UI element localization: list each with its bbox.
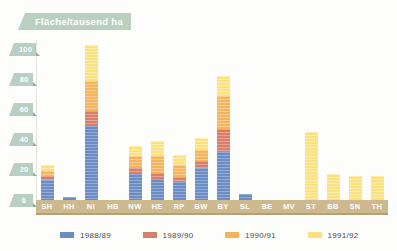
bar-segment-HE-1988-89[interactable]	[151, 179, 164, 200]
legend-label: 1991/92	[328, 231, 359, 240]
bar-segment-HE-1991-92[interactable]	[151, 141, 164, 156]
bar-segment-BW-1988-89[interactable]	[195, 168, 208, 200]
bar-stack-SH[interactable]	[41, 165, 54, 200]
y-axis-tick-40: 40	[14, 133, 33, 146]
bar-stack-BB[interactable]	[327, 174, 340, 200]
bar-segment-BW-1990-91[interactable]	[195, 150, 208, 161]
legend-item-1990-91[interactable]: 1990/91	[225, 231, 308, 240]
y-axis-tick-100: 100	[14, 43, 36, 56]
bar-segment-BB-1991-92[interactable]	[327, 174, 340, 200]
x-axis-tick-NW: NW	[124, 200, 146, 213]
bar-segment-NI-1990-91[interactable]	[85, 81, 98, 111]
bar-slot-HH[interactable]	[58, 40, 80, 200]
bar-slot-SH[interactable]	[36, 40, 58, 200]
bar-slot-SL[interactable]	[234, 40, 256, 200]
y-axis-tick-20: 20	[14, 163, 33, 176]
bar-stack-ST[interactable]	[305, 132, 318, 200]
bar-segment-NI-1988-89[interactable]	[85, 126, 98, 200]
legend-swatch-icon-1991-92	[308, 232, 322, 238]
bar-segment-NI-1989-90[interactable]	[85, 111, 98, 126]
bar-slot-TH[interactable]	[366, 40, 388, 200]
bar-segment-HE-1990-91[interactable]	[151, 156, 164, 173]
bar-slot-HE[interactable]	[146, 40, 168, 200]
bar-slot-BE[interactable]	[256, 40, 278, 200]
bar-segment-RP-1991-92[interactable]	[173, 155, 186, 166]
bar-slot-SN[interactable]	[344, 40, 366, 200]
bar-segment-BW-1989-90[interactable]	[195, 161, 208, 169]
bar-segment-NW-1990-91[interactable]	[129, 156, 142, 168]
x-axis-tick-SH: SH	[36, 200, 58, 213]
bar-segment-ST-1991-92[interactable]	[305, 132, 318, 200]
bar-stack-RP[interactable]	[173, 155, 186, 200]
legend-swatch-icon-1988-89	[60, 232, 74, 238]
bar-stack-TH[interactable]	[371, 176, 384, 200]
bar-slot-BW[interactable]	[190, 40, 212, 200]
bar-segment-NW-1988-89[interactable]	[129, 174, 142, 200]
bar-segment-BY-1989-90[interactable]	[217, 129, 230, 152]
bar-slot-ST[interactable]	[300, 40, 322, 200]
bar-stack-NI[interactable]	[85, 45, 98, 200]
bar-segment-NW-1991-92[interactable]	[129, 146, 142, 157]
chart-container: Fläche/tausend ha SHHHNIHBNWHERPBWBYSLBE…	[0, 0, 397, 251]
legend-swatch-icon-1990-91	[225, 232, 239, 238]
x-axis-tick-MV: MV	[278, 200, 300, 213]
legend-swatch-icon-1989-90	[143, 232, 157, 238]
chart-title: Fläche/tausend ha	[25, 13, 131, 30]
bar-segment-BY-1988-89[interactable]	[217, 152, 230, 200]
x-axis-tick-TH: TH	[366, 200, 388, 213]
bar-segment-TH-1991-92[interactable]	[371, 176, 384, 200]
x-axis-tick-BE: BE	[256, 200, 278, 213]
bar-slot-NI[interactable]	[80, 40, 102, 200]
bar-segment-RP-1990-91[interactable]	[173, 165, 186, 177]
x-axis-tick-ST: ST	[300, 200, 322, 213]
legend-item-1988-89[interactable]: 1988/89	[60, 231, 143, 240]
legend-label: 1990/91	[245, 231, 276, 240]
bar-stack-SN[interactable]	[349, 176, 362, 200]
bar-segment-BY-1990-91[interactable]	[217, 96, 230, 129]
bar-segment-RP-1988-89[interactable]	[173, 182, 186, 200]
x-axis-tick-SL: SL	[234, 200, 256, 213]
bar-segment-SH-1988-89[interactable]	[41, 180, 54, 200]
y-axis-tick-0: 0	[14, 194, 33, 207]
bar-stack-NW[interactable]	[129, 146, 142, 200]
x-axis-tick-RP: RP	[168, 200, 190, 213]
bar-slot-HB[interactable]	[102, 40, 124, 200]
plot-area	[36, 40, 388, 200]
bar-slot-BY[interactable]	[212, 40, 234, 200]
bar-segment-BW-1991-92[interactable]	[195, 138, 208, 150]
bar-stack-BY[interactable]	[217, 76, 230, 200]
bar-group	[36, 40, 388, 200]
y-axis-tick-60: 60	[14, 103, 33, 116]
x-axis-tick-HB: HB	[102, 200, 124, 213]
legend-item-1989-90[interactable]: 1989/90	[143, 231, 226, 240]
bar-segment-NI-1991-92[interactable]	[85, 45, 98, 81]
bar-stack-BW[interactable]	[195, 138, 208, 200]
x-axis-tick-SN: SN	[344, 200, 366, 213]
x-axis-tick-BY: BY	[212, 200, 234, 213]
chart-legend: 1988/891989/901990/911991/92	[60, 228, 390, 242]
bar-stack-HE[interactable]	[151, 141, 164, 200]
bar-slot-MV[interactable]	[278, 40, 300, 200]
x-axis-tick-NI: NI	[80, 200, 102, 213]
x-axis-tick-HE: HE	[146, 200, 168, 213]
bar-slot-NW[interactable]	[124, 40, 146, 200]
x-axis: SHHHNIHBNWHERPBWBYSLBEMVSTBBSNTH	[36, 200, 388, 213]
bar-segment-BY-1991-92[interactable]	[217, 76, 230, 96]
legend-label: 1988/89	[80, 231, 111, 240]
x-axis-shadow	[36, 213, 388, 215]
x-axis-tick-HH: HH	[58, 200, 80, 213]
y-axis-tick-80: 80	[14, 73, 33, 86]
legend-item-1991-92[interactable]: 1991/92	[308, 231, 391, 240]
x-axis-tick-BB: BB	[322, 200, 344, 213]
bar-slot-BB[interactable]	[322, 40, 344, 200]
bar-slot-RP[interactable]	[168, 40, 190, 200]
x-axis-tick-BW: BW	[190, 200, 212, 213]
bar-segment-SN-1991-92[interactable]	[349, 176, 362, 200]
legend-label: 1989/90	[163, 231, 194, 240]
